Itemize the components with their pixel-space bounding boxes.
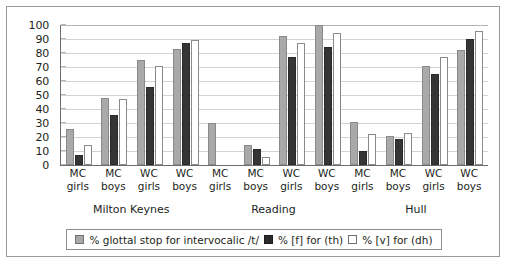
- category-bar-group: [452, 25, 488, 165]
- x-axis-category-label: WCboys: [309, 167, 345, 197]
- y-axis-tick-label: 10: [35, 146, 49, 157]
- category-bar-group: [274, 25, 310, 165]
- y-axis-tick-label: 20: [35, 132, 49, 143]
- bar: [155, 66, 163, 165]
- legend-label: % [f] for (th): [278, 234, 343, 246]
- x-axis-category-label-line: boys: [309, 180, 345, 193]
- y-axis-tick-label: 100: [29, 20, 49, 31]
- legend-swatch-icon: [75, 235, 84, 244]
- x-axis-category-label-line: WC: [273, 167, 309, 180]
- bar: [324, 47, 332, 165]
- bar: [475, 31, 483, 165]
- x-axis-category-label: WCboys: [451, 167, 487, 197]
- gridline: [61, 25, 488, 26]
- x-axis-category-label: WCgirls: [416, 167, 452, 197]
- bar: [137, 60, 145, 165]
- x-axis-category-label-line: girls: [60, 180, 96, 193]
- x-axis-category-label-line: girls: [131, 180, 167, 193]
- y-axis-tick-label: 30: [35, 118, 49, 129]
- bar: [244, 145, 252, 165]
- bar: [440, 57, 448, 165]
- y-axis-tick-label: 40: [35, 104, 49, 115]
- x-axis-city-labels: Milton KeynesReadingHull: [60, 203, 487, 219]
- x-axis-category-label-line: boys: [380, 180, 416, 193]
- y-axis-tick-label: 70: [35, 62, 49, 73]
- gridline: [61, 39, 488, 40]
- gridline: [61, 53, 488, 54]
- bar: [386, 136, 394, 165]
- bar: [119, 99, 127, 165]
- bar: [66, 129, 74, 165]
- x-axis-category-label: MCgirls: [202, 167, 238, 197]
- category-bar-group: [168, 25, 204, 165]
- bar: [466, 39, 474, 165]
- x-axis-category-label-line: boys: [451, 180, 487, 193]
- x-axis-category-label-line: boys: [96, 180, 132, 193]
- bar: [368, 134, 376, 165]
- x-axis-category-label-line: boys: [167, 180, 203, 193]
- category-bar-group: [132, 25, 168, 165]
- legend-item: % glottal stop for intervocalic /t/: [75, 234, 258, 246]
- category-bar-group: [417, 25, 453, 165]
- legend-item: % [v] for (dh): [348, 234, 432, 246]
- x-axis-category-label: WCboys: [167, 167, 203, 197]
- x-axis-category-label: MCboys: [96, 167, 132, 197]
- category-bar-group: [310, 25, 346, 165]
- legend-swatch-icon: [264, 235, 273, 244]
- city-name-label: Milton Keynes: [60, 203, 202, 219]
- legend-swatch-icon: [348, 235, 357, 244]
- x-axis-category-label-line: MC: [345, 167, 381, 180]
- x-axis-category-label-line: WC: [416, 167, 452, 180]
- x-axis-category-label-line: WC: [451, 167, 487, 180]
- legend-label: % [v] for (dh): [362, 234, 432, 246]
- legend-label: % glottal stop for intervocalic /t/: [89, 234, 258, 246]
- x-axis-category-label: MCgirls: [60, 167, 96, 197]
- x-axis-category-label: MCgirls: [345, 167, 381, 197]
- y-axis-tick-label: 90: [35, 34, 49, 45]
- y-axis-tick-label: 50: [35, 90, 49, 101]
- x-axis-category-label-line: MC: [380, 167, 416, 180]
- bar: [84, 145, 92, 165]
- bar: [208, 123, 216, 165]
- chart-legend: % glottal stop for intervocalic /t/% [f]…: [66, 229, 442, 250]
- bar: [404, 133, 412, 165]
- bar: [253, 149, 261, 165]
- city-label-row: MCgirlsMCboysWCgirlsWCboys: [60, 167, 202, 197]
- bar: [110, 115, 118, 165]
- bar: [75, 155, 83, 165]
- x-axis-category-label-line: girls: [273, 180, 309, 193]
- legend-item: % [f] for (th): [264, 234, 343, 246]
- x-axis-category-label: WCgirls: [131, 167, 167, 197]
- y-axis-tick-label: 60: [35, 76, 49, 87]
- bar: [146, 87, 154, 165]
- bar: [182, 43, 190, 165]
- x-axis-category-label: WCgirls: [273, 167, 309, 197]
- bar: [359, 151, 367, 165]
- city-label-row: MCgirlsMCboysWCgirlsWCboys: [345, 167, 487, 197]
- x-axis-category-label-line: MC: [96, 167, 132, 180]
- bar: [173, 49, 181, 165]
- x-axis-category-labels: MCgirlsMCboysWCgirlsWCboysMCgirlsMCboysW…: [60, 167, 487, 197]
- plot-area: [60, 25, 488, 166]
- bar: [288, 57, 296, 165]
- x-axis-category-label: MCboys: [238, 167, 274, 197]
- bar: [422, 66, 430, 165]
- x-axis-category-label-line: MC: [60, 167, 96, 180]
- bar: [262, 157, 270, 165]
- x-axis-category-label: MCboys: [380, 167, 416, 197]
- x-axis-category-label-line: WC: [167, 167, 203, 180]
- y-axis-tick-label: 0: [42, 160, 49, 171]
- x-axis-category-label-line: boys: [238, 180, 274, 193]
- bar: [333, 33, 341, 165]
- x-axis-category-label-line: girls: [202, 180, 238, 193]
- bar: [457, 50, 465, 165]
- x-axis-category-label-line: MC: [238, 167, 274, 180]
- bar: [101, 98, 109, 165]
- x-axis-category-label-line: WC: [309, 167, 345, 180]
- x-axis-category-label-line: MC: [202, 167, 238, 180]
- chart-figure: 0102030405060708090100 MCgirlsMCboysWCgi…: [6, 6, 500, 257]
- bar: [395, 139, 403, 165]
- x-axis-category-label-line: girls: [416, 180, 452, 193]
- city-label-row: MCgirlsMCboysWCgirlsWCboys: [202, 167, 344, 197]
- bar: [350, 122, 358, 165]
